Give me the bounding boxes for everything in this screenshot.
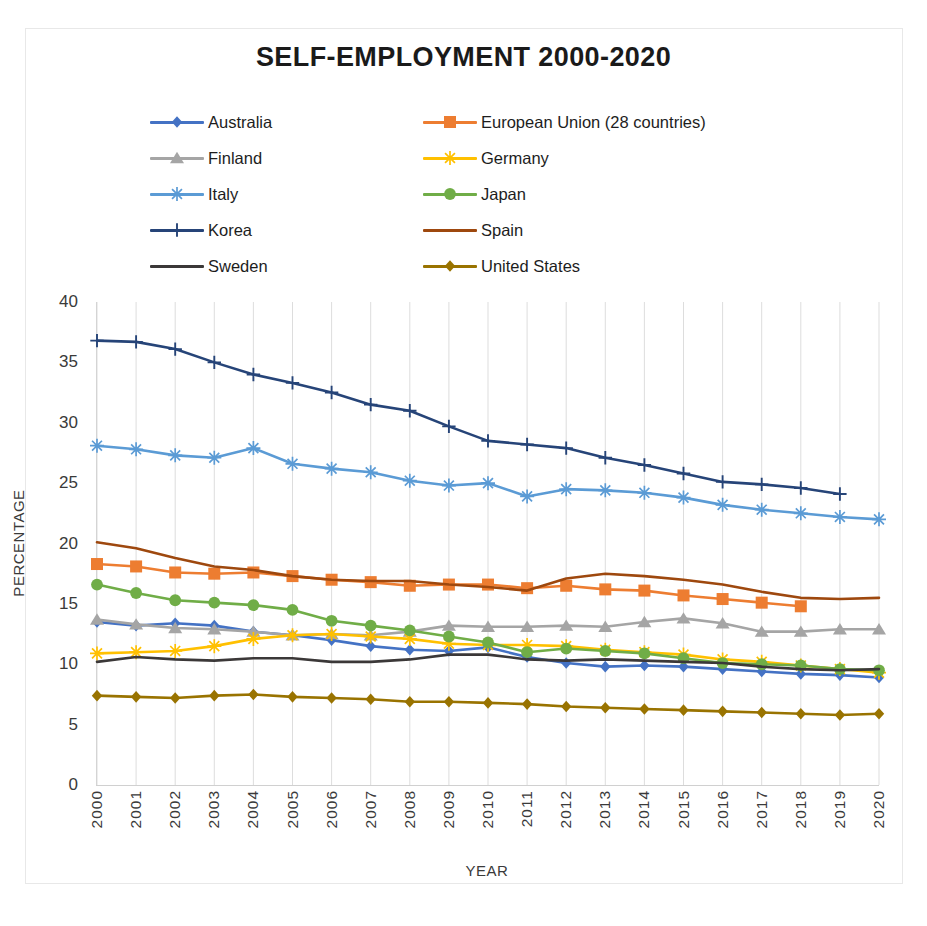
- x-axis-title: YEAR: [96, 862, 878, 879]
- data-point-marker: [481, 476, 495, 490]
- data-point-marker: [246, 632, 260, 646]
- data-point-marker: [678, 589, 690, 601]
- x-tick-label: 2001: [127, 790, 145, 828]
- data-point-marker: [794, 481, 807, 494]
- data-point-marker: [325, 462, 339, 476]
- plot-area: [96, 302, 879, 786]
- data-point-marker: [443, 631, 455, 643]
- legend-item[interactable]: Germany: [423, 140, 723, 176]
- data-point-marker: [405, 696, 415, 708]
- legend-label: Finland: [208, 149, 262, 168]
- chart-legend: AustraliaFinlandItalyKoreaSweden Europea…: [150, 104, 770, 284]
- legend-swatch: [423, 184, 477, 204]
- data-point-marker: [560, 580, 572, 592]
- legend-item[interactable]: Sweden: [150, 248, 450, 284]
- legend-item[interactable]: United States: [423, 248, 723, 284]
- legend-item[interactable]: Korea: [150, 212, 450, 248]
- data-point-marker: [445, 260, 455, 272]
- data-point-marker: [716, 498, 730, 512]
- legend-marker-icon: [150, 220, 204, 240]
- legend-item[interactable]: European Union (28 countries): [423, 104, 723, 140]
- series-line: [97, 341, 840, 494]
- data-point-marker: [170, 692, 180, 704]
- y-tick-label: 0: [69, 775, 78, 795]
- data-point-marker: [129, 335, 142, 348]
- plot-svg: [97, 302, 879, 785]
- x-tick-label: 2007: [362, 790, 380, 828]
- legend-marker-icon: [423, 256, 477, 276]
- legend-marker-icon: [423, 148, 477, 168]
- data-point-marker: [90, 439, 104, 453]
- data-point-marker: [598, 483, 612, 497]
- legend-item[interactable]: Spain: [423, 212, 723, 248]
- legend-marker-icon: [150, 112, 204, 132]
- data-point-marker: [90, 646, 104, 660]
- x-tick-label: 2005: [284, 790, 302, 828]
- x-tick-label: 2009: [440, 790, 458, 828]
- x-tick-label: 2008: [401, 790, 419, 828]
- data-point-marker: [599, 645, 611, 657]
- data-point-marker: [208, 597, 220, 609]
- legend-swatch: [423, 148, 477, 168]
- data-point-marker: [207, 639, 221, 653]
- data-point-marker: [169, 342, 182, 355]
- data-point-marker: [520, 438, 533, 451]
- x-tick-label: 2019: [831, 790, 849, 828]
- legend-item[interactable]: Finland: [150, 140, 450, 176]
- data-point-marker: [168, 448, 182, 462]
- data-point-marker: [637, 486, 651, 500]
- data-point-marker: [872, 512, 886, 526]
- data-point-marker: [561, 701, 571, 713]
- y-tick-label: 10: [59, 654, 78, 674]
- x-axis-labels: 2000200120022003200420052006200720082009…: [96, 790, 878, 860]
- x-tick-label: 2015: [675, 790, 693, 828]
- legend-item[interactable]: Japan: [423, 176, 723, 212]
- data-point-marker: [444, 116, 456, 128]
- data-point-marker: [794, 506, 808, 520]
- legend-item[interactable]: Italy: [150, 176, 450, 212]
- data-point-marker: [287, 604, 299, 616]
- data-point-marker: [130, 560, 142, 572]
- data-point-marker: [364, 629, 378, 643]
- data-point-marker: [717, 706, 727, 718]
- x-tick-label: 2011: [518, 790, 536, 827]
- data-point-marker: [756, 597, 768, 609]
- legend-swatch: [150, 148, 204, 168]
- data-point-marker: [599, 451, 612, 464]
- data-point-marker: [364, 465, 378, 479]
- legend-marker-icon: [150, 184, 204, 204]
- x-tick-label: 2017: [753, 790, 771, 828]
- x-tick-label: 2002: [166, 790, 184, 828]
- data-point-marker: [678, 704, 688, 716]
- data-point-marker: [168, 644, 182, 658]
- data-point-marker: [403, 404, 416, 417]
- data-point-marker: [91, 558, 103, 570]
- data-point-marker: [796, 708, 806, 720]
- data-point-marker: [755, 503, 769, 517]
- legend-swatch: [150, 220, 204, 240]
- x-tick-label: 2006: [323, 790, 341, 828]
- data-point-marker: [442, 420, 455, 433]
- data-point-marker: [326, 692, 336, 704]
- data-point-marker: [286, 628, 300, 642]
- data-point-marker: [286, 457, 300, 471]
- chart-figure: SELF-EMPLOYMENT 2000-2020 AustraliaFinla…: [0, 0, 927, 926]
- y-tick-label: 30: [59, 413, 78, 433]
- data-point-marker: [326, 615, 338, 627]
- data-point-marker: [599, 583, 611, 595]
- data-point-marker: [366, 693, 376, 705]
- data-point-marker: [481, 434, 494, 447]
- data-point-marker: [170, 223, 183, 236]
- legend-column-left: AustraliaFinlandItalyKoreaSweden: [150, 104, 450, 284]
- data-point-marker: [247, 566, 259, 578]
- data-point-marker: [716, 475, 729, 488]
- legend-swatch: [423, 112, 477, 132]
- data-point-marker: [795, 600, 807, 612]
- data-point-marker: [208, 356, 221, 369]
- data-point-marker: [169, 594, 181, 606]
- legend-item[interactable]: Australia: [150, 104, 450, 140]
- data-point-marker: [170, 187, 184, 201]
- series-korea: [90, 334, 846, 501]
- legend-marker-icon: [423, 184, 477, 204]
- x-tick-label: 2000: [88, 790, 106, 828]
